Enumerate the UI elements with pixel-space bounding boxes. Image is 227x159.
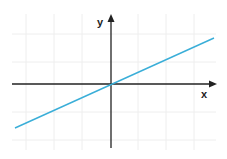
x-axis	[12, 81, 217, 88]
function-line	[15, 38, 214, 128]
y-axis-arrow-icon	[108, 14, 115, 22]
x-axis-label: x	[201, 89, 207, 100]
y-axis-label: y	[97, 17, 103, 28]
coordinate-plane	[0, 0, 227, 159]
grid	[12, 14, 216, 150]
x-axis-arrow-icon	[209, 81, 217, 88]
